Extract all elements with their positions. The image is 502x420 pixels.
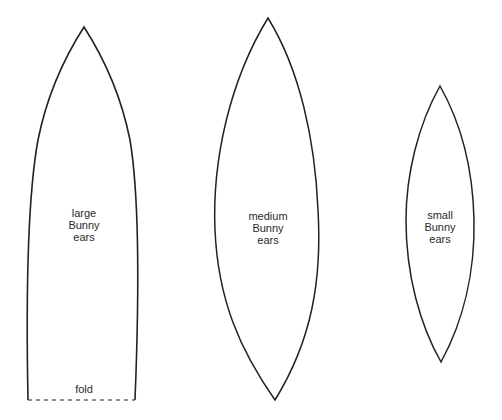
small-ear-label-line-1: small [414,209,466,221]
large-ear-label-line-1: large [58,207,110,219]
medium-ear-label-line-1: medium [238,210,298,222]
medium-bunny-ear-shape [215,18,319,400]
large-ear-label-line-2: Bunny [58,219,110,231]
small-ear-label-line-2: Bunny [414,221,466,233]
small-ear-label-line-3: ears [414,233,466,245]
medium-ear-label-line-2: Bunny [238,222,298,234]
fold-label: fold [64,383,104,395]
medium-ear-label-line-3: ears [238,234,298,246]
small-ear-label: small Bunny ears [414,209,466,245]
medium-ear-label: medium Bunny ears [238,210,298,246]
large-ear-label: large Bunny ears [58,207,110,243]
large-ear-label-line-3: ears [58,231,110,243]
medium-ear-outline [215,18,319,400]
